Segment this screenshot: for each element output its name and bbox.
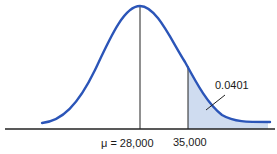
shaded-tail-area <box>188 66 268 129</box>
normal-curve <box>42 6 270 123</box>
mean-label: μ = 28,000 <box>101 137 154 149</box>
probability-annotation: 0.0401 <box>215 79 249 91</box>
marker-label: 35,000 <box>173 136 207 148</box>
normal-distribution-chart <box>0 0 277 154</box>
